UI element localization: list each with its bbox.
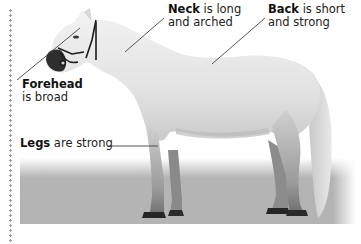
label-legs: Legs are strong <box>20 137 113 150</box>
label-forehead: Forehead is broad <box>22 78 83 103</box>
horse-far-front-leg <box>168 150 182 214</box>
horse-eye <box>73 35 79 38</box>
horse-photo <box>0 0 361 244</box>
label-neck-desc-2: and arched <box>168 15 233 29</box>
label-back-desc-2: and strong <box>268 15 330 29</box>
hoof <box>286 210 308 216</box>
label-back: Back is short and strong <box>268 3 345 28</box>
hoof <box>168 210 184 216</box>
hoof <box>266 208 290 214</box>
hoof <box>142 212 166 218</box>
label-forehead-desc: is broad <box>22 90 68 104</box>
label-neck: Neck is long and arched <box>168 3 241 28</box>
label-legs-desc: are strong <box>50 136 113 150</box>
label-legs-term: Legs <box>20 136 50 150</box>
